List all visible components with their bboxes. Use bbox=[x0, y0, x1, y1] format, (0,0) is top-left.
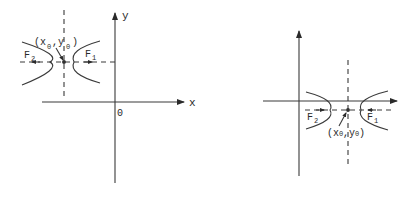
focus-f2-sub: 2 bbox=[314, 117, 318, 125]
left-labels: x y 0 (x 0 ,y 0 ) F 2 F 1 bbox=[24, 10, 196, 119]
center-point bbox=[347, 109, 350, 112]
center-pointer-arrow bbox=[56, 48, 63, 60]
center-label-close: ) bbox=[359, 128, 365, 139]
origin-label: 0 bbox=[117, 108, 123, 119]
focus-f1-label: F bbox=[367, 112, 373, 123]
x-axis-label: x bbox=[189, 97, 196, 109]
center-point bbox=[63, 61, 66, 64]
center-label-y: ,y bbox=[52, 37, 64, 48]
center-label-close: ) bbox=[72, 37, 78, 48]
focus-f2-label: F bbox=[307, 112, 313, 123]
focus-f1-sub: 1 bbox=[92, 54, 96, 62]
right-diagram bbox=[263, 31, 397, 176]
focus-f2-sub: 2 bbox=[31, 55, 35, 63]
focus-f2-label: F bbox=[24, 50, 30, 61]
y-axis-label: y bbox=[122, 10, 129, 22]
left-diagram bbox=[20, 10, 184, 183]
focus-f1-label: F bbox=[85, 49, 91, 60]
center-label-x: (x bbox=[34, 37, 46, 48]
center-label-y: ,y bbox=[343, 128, 355, 139]
center-label-x: (x bbox=[327, 128, 339, 139]
right-labels: F 2 F 1 (x 0 ,y 0 ) bbox=[307, 112, 378, 139]
center-label-y-sub: 0 bbox=[66, 43, 70, 51]
focus-f1-sub: 1 bbox=[374, 117, 378, 125]
center-pointer-arrow bbox=[339, 113, 346, 126]
center-label-x-sub: 0 bbox=[47, 43, 51, 51]
diagram-canvas: x y 0 (x 0 ,y 0 ) F 2 F 1 F 2 F 1 (x 0 ,… bbox=[0, 0, 419, 197]
